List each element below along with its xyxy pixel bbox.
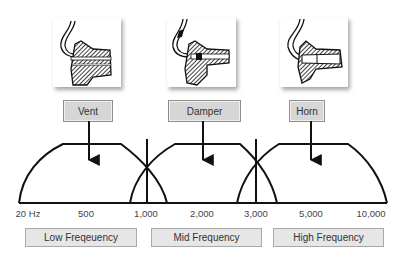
tick-3000: 3,000: [244, 208, 268, 219]
tick-500: 500: [78, 208, 94, 219]
low-band-curve: [19, 144, 167, 203]
mid-frequency-band-label: Mid Frequency: [151, 228, 262, 247]
tick-2000: 2,000: [190, 208, 214, 219]
tick-1000: 1,000: [134, 208, 158, 219]
tick-10000: 10,000: [356, 208, 385, 219]
tick-20hz: 20 Hz: [16, 208, 41, 219]
low-frequency-band-label: Low Freqeuency: [25, 228, 137, 247]
frequency-response-curves: [0, 0, 400, 258]
high-frequency-band-label: High Frequency: [273, 228, 384, 247]
tick-5000: 5,000: [299, 208, 323, 219]
